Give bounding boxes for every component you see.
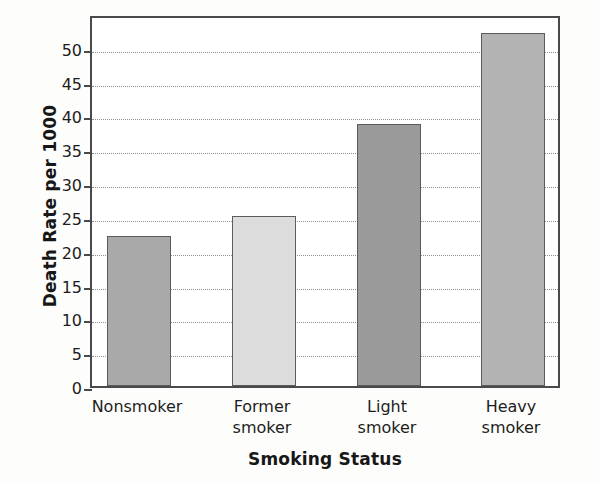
x-axis-category-label: Heavysmoker xyxy=(436,396,586,438)
x-axis-category-label: Formersmoker xyxy=(187,396,337,438)
x-axis-category-label: Lightsmoker xyxy=(312,396,462,438)
x-axis-category-label: Nonsmoker xyxy=(62,396,212,417)
y-axis-tick xyxy=(84,186,92,188)
y-axis-tick xyxy=(84,389,92,391)
bar-heavy-smoker[interactable] xyxy=(481,33,545,386)
category-label-line: Light xyxy=(312,396,462,417)
y-axis-tick-label: 0 xyxy=(42,379,82,398)
y-axis-tick xyxy=(84,288,92,290)
bar-former-smoker[interactable] xyxy=(232,216,296,386)
bar-nonsmoker[interactable] xyxy=(107,236,171,386)
y-axis-tick xyxy=(84,51,92,53)
bar-light-smoker[interactable] xyxy=(357,124,421,386)
y-axis-title: Death Rate per 1000 xyxy=(40,36,60,376)
x-axis-title: Smoking Status xyxy=(90,449,560,469)
category-label-line: smoker xyxy=(436,417,586,438)
plot-area xyxy=(90,16,560,388)
y-axis-tick xyxy=(84,355,92,357)
category-label-line: Former xyxy=(187,396,337,417)
y-axis-tick xyxy=(84,321,92,323)
y-axis-tick xyxy=(84,152,92,154)
category-label-line: smoker xyxy=(312,417,462,438)
y-axis-tick xyxy=(84,118,92,120)
y-axis-tick xyxy=(84,254,92,256)
category-label-line: Heavy xyxy=(436,396,586,417)
category-label-line: Nonsmoker xyxy=(62,396,212,417)
category-label-line: smoker xyxy=(187,417,337,438)
y-axis-tick xyxy=(84,220,92,222)
bar-chart-figure: Death Rate per 1000 05101520253035404550… xyxy=(0,0,600,484)
y-axis-tick xyxy=(84,85,92,87)
